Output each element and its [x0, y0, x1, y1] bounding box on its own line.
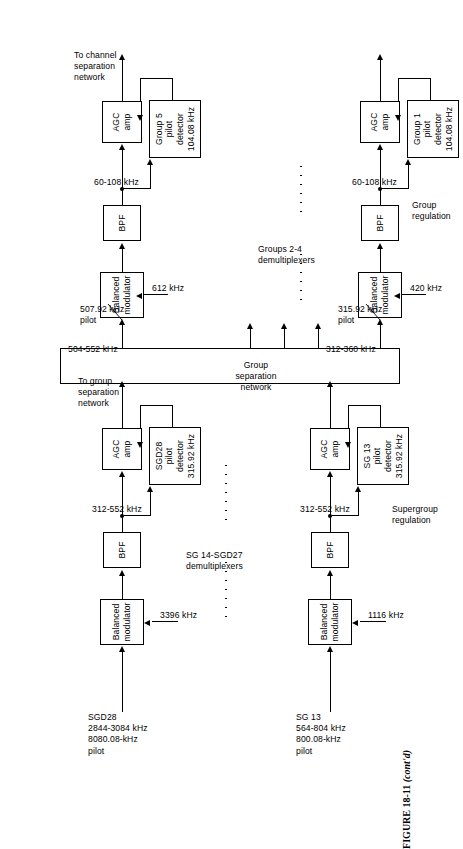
group1-pilot-detector: Group 1 pilot detector 104.08 kHz	[407, 100, 459, 158]
sgd28-carrier-arrow	[144, 620, 150, 626]
group1-det-up	[398, 78, 430, 79]
sg13-carrier-label: 1116 kHz	[368, 610, 428, 621]
group5-carrier-label: 612 kHz	[152, 283, 212, 294]
group1-bm-to-bpf	[380, 246, 381, 272]
group1-bpf-to-agc-arrow	[377, 144, 383, 150]
group5-agc-amp-label: AGC amp	[111, 111, 132, 134]
sg13-det-out	[380, 405, 381, 427]
group1-agc-amp: AGC amp	[360, 101, 400, 143]
sg13-bpf: BPF	[311, 532, 349, 568]
supergroup-demux-dots-right	[225, 462, 227, 524]
sgd28-pilot-detector: SGD28 pilot detector 315.92 kHz	[149, 427, 201, 485]
group-demux-dots-right	[300, 164, 302, 216]
supergroup-regulation-label: Supergroup regulation	[392, 504, 463, 526]
figure-caption-note: (cont'd)	[401, 750, 412, 782]
sg13-bpf-to-agc-arrow	[327, 471, 333, 477]
supergroup-demux-run-label: SG 14-SGD27 demultiplexers	[186, 550, 286, 572]
sg13-balanced-modulator: Balanced modulator	[308, 599, 352, 645]
group5-pilot-detector-label: Group 5 pilot detector 104.08 kHz	[154, 105, 197, 153]
sgd28-input-label: SGD28 2844-3084 kHz 8080.08-kHz pilot	[88, 712, 228, 757]
sgd28-bpf-to-agc	[122, 474, 123, 532]
group1-pilot-detector-label: Group 1 pilot detector 104.08 kHz	[412, 105, 455, 153]
gsn-tap-group4-arrow	[247, 323, 253, 329]
group5-tap-band-label: 504-552 kHz	[68, 344, 138, 355]
group1-agc-ctrl-arrow	[395, 115, 401, 121]
group1-carrier-label: 420 kHz	[410, 283, 463, 294]
sg13-agc-ctrl-arrow	[345, 442, 351, 448]
sg13-det-up	[348, 405, 380, 406]
group5-bpf: BPF	[103, 205, 141, 241]
sg13-pilot-detector-label: SG 13 pilot detector 315.92 kHz	[362, 432, 405, 480]
gsn-tap-group2-arrow	[315, 323, 321, 329]
group5-bm-to-bpf-arrow	[119, 243, 125, 249]
figure-caption: FIGURE 18-11 (cont'd)	[401, 750, 412, 849]
group1-bpf-to-agc	[380, 147, 381, 205]
sg13-agc-out	[330, 384, 331, 428]
sg13-pilot-detector: SG 13 pilot detector 315.92 kHz	[357, 427, 409, 485]
group5-carrier-arrow	[136, 293, 142, 299]
group5-bpf-to-agc	[122, 147, 123, 205]
sgd28-bm-to-bpf-arrow	[119, 570, 125, 576]
group1-det-in-arrow	[405, 159, 411, 165]
group5-band-label: 60-108 kHz	[94, 177, 164, 188]
sgd28-det-in-arrow	[147, 486, 153, 492]
group1-bm-to-bpf-arrow	[377, 243, 383, 249]
sgd28-balanced-modulator: Balanced modulator	[100, 599, 144, 645]
sg13-bpf-to-agc	[330, 474, 331, 532]
group1-band-label: 60-108 kHz	[352, 177, 422, 188]
to-channel-separation-network-label: To channel separation network	[74, 50, 174, 84]
sg13-input-line	[330, 650, 331, 712]
group-regulation-label: Group regulation	[412, 200, 463, 222]
group5-det-in-arrow	[147, 159, 153, 165]
sgd28-bpf: BPF	[103, 532, 141, 568]
sgd28-agc-amp-label: AGC amp	[111, 438, 132, 461]
sg13-bm-to-bpf	[330, 573, 331, 599]
group-separation-network-label: Group separation network	[196, 360, 316, 394]
group1-bpf-label: BPF	[375, 213, 386, 234]
group1-pilot-label: 315.92 kHz pilot	[338, 304, 418, 326]
sgd28-bm-to-bpf	[122, 573, 123, 599]
gsn-tap-group3-arrow	[281, 323, 287, 329]
sg13-det-in-arrow	[355, 486, 361, 492]
sg13-band-label: 312-552 kHz	[300, 504, 380, 515]
sg13-agc-out-arrow	[327, 381, 333, 387]
group5-bpf-label: BPF	[117, 213, 128, 234]
sg13-input-arrow	[327, 646, 333, 652]
group5-pilot-detector: Group 5 pilot detector 104.08 kHz	[149, 100, 201, 158]
sg13-bpf-label: BPF	[325, 540, 336, 561]
sgd28-band-label: 312-552 kHz	[92, 504, 172, 515]
sgd28-bpf-to-agc-arrow	[119, 471, 125, 477]
group1-agc-amp-label: AGC amp	[369, 111, 390, 134]
group5-agc-ctrl-arrow	[137, 115, 143, 121]
group5-bm-to-bpf	[122, 246, 123, 272]
group1-agc-out	[380, 57, 381, 101]
sgd28-det-out	[172, 405, 173, 427]
group1-agc-out-arrow	[377, 54, 383, 60]
sgd28-balanced-modulator-label: Balanced modulator	[111, 600, 132, 643]
sg13-agc-amp-label: AGC amp	[319, 438, 340, 461]
sgd28-pilot-detector-label: SGD28 pilot detector 315.92 kHz	[154, 432, 197, 480]
gsn-tap-group2	[318, 326, 319, 348]
group5-bpf-to-agc-arrow	[119, 144, 125, 150]
sgd28-agc-ctrl-arrow	[137, 442, 143, 448]
sg13-agc-amp: AGC amp	[310, 428, 350, 470]
gsn-tap-group3	[284, 326, 285, 348]
group1-carrier-arrow	[394, 293, 400, 299]
sg13-bm-to-bpf-arrow	[327, 570, 333, 576]
group-demux-run-label: Groups 2-4 demultiplexers	[258, 244, 354, 266]
sg13-input-label: SG 13 564-804 kHz 800.08-kHz pilot	[296, 712, 416, 757]
group5-agc-amp: AGC amp	[102, 101, 142, 143]
to-group-separation-network-label: To group separation network	[78, 376, 168, 410]
sg13-carrier-arrow	[352, 620, 358, 626]
sgd28-bpf-label: BPF	[117, 540, 128, 561]
figure-caption-number: FIGURE 18-11	[401, 785, 412, 849]
group1-bpf: BPF	[361, 205, 399, 241]
gsn-tap-group4	[250, 326, 251, 348]
sgd28-input-line	[122, 650, 123, 712]
group1-det-out	[430, 78, 431, 100]
sg13-balanced-modulator-label: Balanced modulator	[319, 600, 340, 643]
sgd28-agc-amp: AGC amp	[102, 428, 142, 470]
group1-tap-band-label: 312-360 kHz	[326, 344, 396, 355]
sgd28-carrier-label: 3396 kHz	[160, 610, 220, 621]
